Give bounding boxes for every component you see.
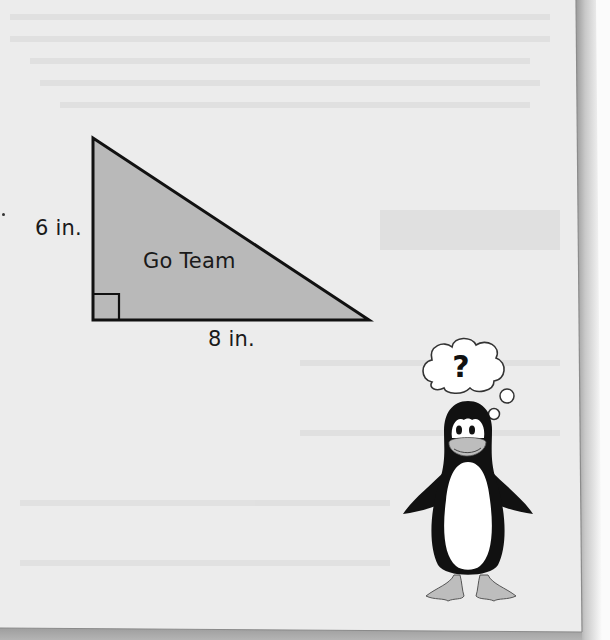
penguin-left-eye xyxy=(456,426,462,435)
textbook-page: ? 6 in. Go Team 8 in. xyxy=(0,0,610,640)
triangle-base-label: 8 in. xyxy=(208,329,255,350)
triangle-inside-label: Go Team xyxy=(143,251,236,272)
thought-dot-large xyxy=(500,389,514,403)
penguin-right-eye xyxy=(469,426,475,435)
triangle-height-label: 6 in. xyxy=(35,218,82,239)
penguin-belly xyxy=(444,462,492,570)
question-mark-icon: ? xyxy=(452,349,469,384)
margin-bullet-dot xyxy=(2,213,5,216)
page-sheet: ? xyxy=(0,0,610,640)
